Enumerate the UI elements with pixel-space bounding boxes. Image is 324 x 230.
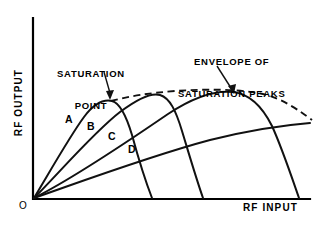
saturation-point-line-1: SATURATION <box>57 69 125 80</box>
envelope-line-1: ENVELOPE OF <box>178 57 285 68</box>
curve-label-c: C <box>108 131 116 143</box>
curve-d <box>34 123 310 198</box>
curve-label-d: D <box>128 144 136 156</box>
y-axis-title: RF OUTPUT <box>13 65 24 141</box>
rf-saturation-chart: RF OUTPUT RF INPUT O SATURATION POINT EN… <box>0 0 324 230</box>
origin-label: O <box>19 200 27 211</box>
curve-label-b: B <box>87 121 95 133</box>
curve-label-a: A <box>65 114 73 126</box>
envelope-line-2: SATURATION PEAKS <box>178 89 285 100</box>
x-axis-title: RF INPUT <box>243 202 298 213</box>
saturation-point-line-2: POINT <box>57 101 125 112</box>
envelope-annotation: ENVELOPE OF SATURATION PEAKS <box>178 36 285 121</box>
